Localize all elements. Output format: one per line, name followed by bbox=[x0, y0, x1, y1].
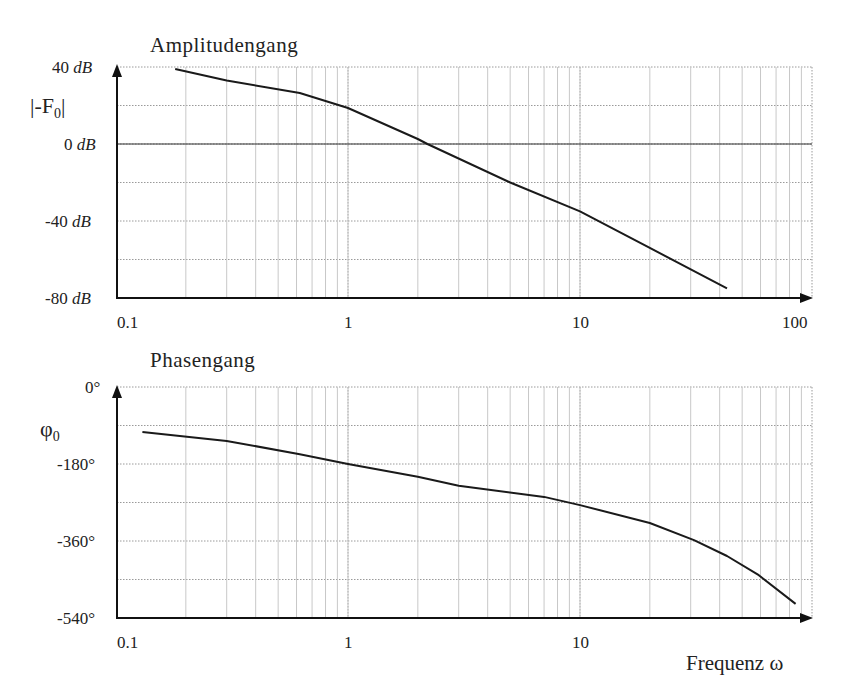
amplitude-plot: Amplitudengang 40 dB 0 dB -40 dB -80 dB … bbox=[30, 33, 813, 332]
amplitude-x-arrow-icon bbox=[800, 293, 813, 303]
phase-ytick-m360: -360° bbox=[57, 532, 95, 551]
amp-xtick-1: 1 bbox=[344, 313, 353, 332]
amp-xtick-0.1: 0.1 bbox=[117, 313, 138, 332]
phase-title: Phasengang bbox=[150, 348, 255, 372]
phase-curve bbox=[142, 432, 795, 604]
bode-plot: Amplitudengang 40 dB 0 dB -40 dB -80 dB … bbox=[0, 0, 851, 700]
amp-ytick-m40: -40 dB bbox=[45, 212, 91, 231]
phase-x-arrow-icon bbox=[800, 613, 813, 623]
phase-grid bbox=[117, 387, 812, 618]
amplitude-grid bbox=[117, 67, 812, 298]
amp-xtick-100: 100 bbox=[782, 313, 808, 332]
amplitude-curve bbox=[175, 69, 727, 289]
x-axis-title: Frequenz ω bbox=[686, 651, 783, 675]
phase-ytick-m180: -180° bbox=[57, 455, 95, 474]
phase-plot: Phasengang 0° -180° -360° -540° φ0 0.1 1… bbox=[40, 348, 813, 675]
phase-xtick-1: 1 bbox=[344, 633, 353, 652]
amplitude-y-label: |-F0| bbox=[30, 93, 65, 121]
phase-y-label: φ0 bbox=[40, 416, 60, 444]
amp-ytick-40: 40 dB bbox=[52, 58, 93, 77]
phase-xtick-10: 10 bbox=[572, 633, 589, 652]
amp-ytick-0: 0 dB bbox=[64, 135, 96, 154]
amp-ytick-m80: -80 dB bbox=[45, 289, 91, 308]
amplitude-title: Amplitudengang bbox=[150, 33, 298, 57]
phase-ytick-0: 0° bbox=[85, 378, 100, 397]
phase-xtick-0.1: 0.1 bbox=[117, 633, 138, 652]
amplitude-y-arrow-icon bbox=[112, 64, 122, 77]
phase-ytick-m540: -540° bbox=[57, 609, 95, 628]
amp-xtick-10: 10 bbox=[572, 313, 589, 332]
